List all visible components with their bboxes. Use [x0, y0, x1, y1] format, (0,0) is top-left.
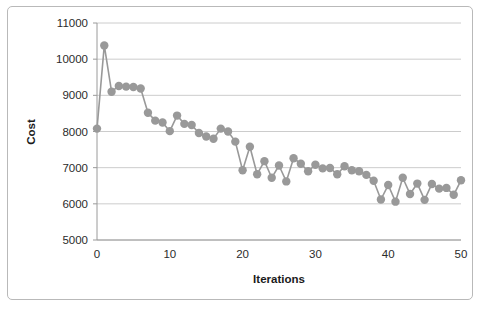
y-tick-label: 10000: [56, 53, 88, 65]
data-point-marker: [246, 142, 254, 150]
data-point-marker: [180, 120, 188, 128]
data-point-marker: [260, 157, 268, 165]
data-point-marker: [173, 111, 181, 119]
data-point-marker: [217, 124, 225, 132]
data-point-marker: [384, 181, 392, 189]
y-tick-label: 11000: [57, 17, 88, 29]
data-point-marker: [326, 164, 334, 172]
data-point-marker: [115, 82, 123, 90]
data-point-marker: [348, 166, 356, 174]
data-point-marker: [166, 127, 174, 135]
data-point-marker: [275, 161, 283, 169]
data-point-marker: [107, 88, 115, 96]
data-point-marker: [136, 84, 144, 92]
y-tick-label: 7000: [62, 162, 88, 174]
x-tick-label: 40: [382, 248, 395, 260]
data-point-marker: [318, 164, 326, 172]
x-tick-label: 20: [236, 248, 249, 260]
data-point-marker: [100, 41, 108, 49]
data-point-marker: [428, 180, 436, 188]
data-point-marker: [362, 171, 370, 179]
data-point-marker: [340, 162, 348, 170]
cost-vs-iterations-chart: 500060007000800090001000011000 010203040…: [0, 0, 482, 310]
data-point-marker: [333, 170, 341, 178]
y-axis-tick-labels: 500060007000800090001000011000: [56, 17, 88, 246]
x-axis-title: Iterations: [253, 273, 305, 285]
y-tick-label: 6000: [62, 198, 88, 210]
data-point-marker: [209, 135, 217, 143]
data-point-marker: [231, 137, 239, 145]
data-point-marker: [238, 166, 246, 174]
y-tick-label: 8000: [62, 126, 88, 138]
data-point-marker: [377, 195, 385, 203]
data-point-marker: [406, 190, 414, 198]
data-point-marker: [122, 82, 130, 90]
y-tick-label: 9000: [62, 89, 88, 101]
data-point-marker: [282, 177, 290, 185]
data-point-marker: [268, 174, 276, 182]
data-point-marker: [93, 124, 101, 132]
x-tick-label: 0: [94, 248, 100, 260]
data-point-marker: [195, 129, 203, 137]
data-point-marker: [355, 167, 363, 175]
data-point-marker: [202, 132, 210, 140]
cost-series-markers: [93, 41, 465, 206]
data-point-marker: [158, 118, 166, 126]
data-point-marker: [297, 159, 305, 167]
data-point-marker: [435, 184, 443, 192]
data-point-marker: [289, 154, 297, 162]
data-point-marker: [129, 83, 137, 91]
x-tick-label: 30: [309, 248, 322, 260]
data-point-marker: [369, 176, 377, 184]
data-point-marker: [144, 108, 152, 116]
data-point-marker: [224, 127, 232, 135]
data-point-marker: [187, 121, 195, 129]
data-point-marker: [450, 191, 458, 199]
data-point-marker: [457, 176, 465, 184]
data-point-marker: [151, 116, 159, 124]
data-point-marker: [442, 184, 450, 192]
data-point-marker: [311, 161, 319, 169]
x-tick-label: 50: [455, 248, 468, 260]
data-point-marker: [413, 179, 421, 187]
data-point-marker: [420, 196, 428, 204]
x-axis-tick-labels: 01020304050: [94, 248, 468, 260]
data-point-marker: [304, 167, 312, 175]
data-point-marker: [399, 174, 407, 182]
y-tick-label: 5000: [62, 234, 88, 246]
horizontal-gridlines: [97, 23, 461, 240]
data-point-marker: [391, 197, 399, 205]
x-tick-label: 10: [163, 248, 176, 260]
chart-canvas: 500060007000800090001000011000 010203040…: [0, 0, 482, 310]
y-axis-title: Cost: [25, 119, 37, 145]
data-point-marker: [253, 170, 261, 178]
